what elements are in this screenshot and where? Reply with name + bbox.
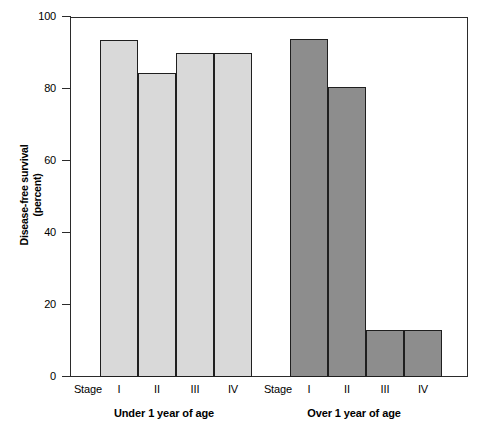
y-axis-title: Disease-free survival (percent) — [14, 120, 48, 270]
y-axis-tick-label: 20 — [20, 299, 56, 310]
chart-figure: Disease-free survival (percent) 02040608… — [0, 0, 488, 430]
bar — [100, 40, 138, 377]
x-axis-category-label: III — [176, 383, 214, 395]
y-axis-tick-label: 40 — [20, 227, 56, 238]
bar — [176, 53, 214, 377]
group-label: Over 1 year of age — [236, 407, 472, 420]
bars-layer — [70, 17, 468, 377]
bar — [138, 73, 176, 377]
x-axis-category-label: IV — [404, 383, 442, 395]
bar — [366, 330, 404, 377]
x-axis-category-label: II — [328, 383, 366, 395]
y-axis-tick-label: 80 — [20, 83, 56, 94]
bar — [214, 53, 252, 377]
y-axis-title-line2: (percent) — [31, 173, 43, 216]
x-axis-category-label: III — [366, 383, 404, 395]
bar — [290, 39, 328, 377]
bar — [404, 330, 442, 377]
y-axis-tick-label: 0 — [20, 371, 56, 382]
y-axis-tick-label: 60 — [20, 155, 56, 166]
y-axis-tick-label: 100 — [20, 11, 56, 22]
x-axis-category-label: II — [138, 383, 176, 395]
bar — [328, 87, 366, 377]
x-axis-stage-label: Stage — [260, 383, 296, 395]
x-axis-stage-label: Stage — [70, 383, 106, 395]
x-axis-category-label: IV — [214, 383, 252, 395]
